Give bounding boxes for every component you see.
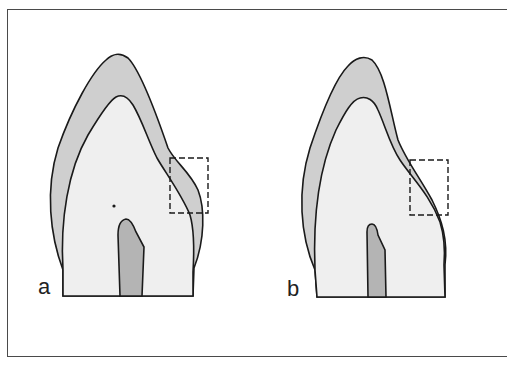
point-marker-a xyxy=(112,204,115,207)
panel-label-b: b xyxy=(287,278,299,300)
panel-label-a: a xyxy=(38,276,50,298)
panel-a-tooth xyxy=(50,54,208,296)
panel-b-tooth xyxy=(302,58,448,297)
